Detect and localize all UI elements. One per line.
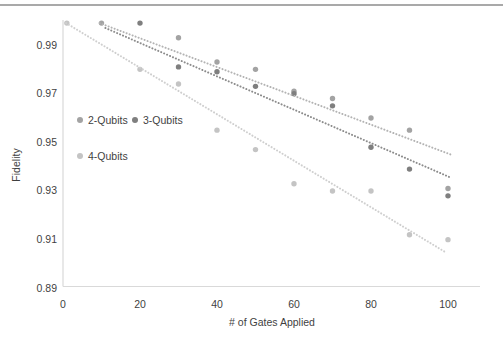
y-tick-label: 0.93 xyxy=(37,184,58,196)
legend-item-2-qubits: 2-Qubits xyxy=(77,114,128,126)
trendline-2-qubits xyxy=(100,23,451,154)
x-tick-label: 20 xyxy=(134,298,146,310)
legend-item-3-qubits: 3-Qubits xyxy=(132,114,183,126)
scatter-point-2-qubits xyxy=(445,186,450,191)
trendline-3-qubits xyxy=(105,28,450,178)
scatter-point-4-qubits xyxy=(214,127,219,132)
x-tick-label: 0 xyxy=(60,298,66,310)
scatter-point-3-qubits xyxy=(330,103,335,108)
scatter-point-2-qubits xyxy=(407,127,412,132)
chart-figure: 0.990.970.950.930.910.89020406080100 Fid… xyxy=(0,0,503,346)
scatter-point-4-qubits xyxy=(407,232,412,237)
scatter-point-3-qubits xyxy=(368,144,373,149)
scatter-point-2-qubits xyxy=(330,96,335,101)
scatter-point-2-qubits xyxy=(214,59,219,64)
scatter-point-3-qubits xyxy=(214,69,219,74)
scatter-point-3-qubits xyxy=(445,193,450,198)
scatter-point-4-qubits xyxy=(291,181,296,186)
y-tick-label: 0.97 xyxy=(37,87,58,99)
legend-dot-icon xyxy=(77,117,83,123)
scatter-point-2-qubits xyxy=(253,67,258,72)
legend-dot-icon xyxy=(132,117,138,123)
scatter-point-3-qubits xyxy=(253,84,258,89)
x-tick-label: 60 xyxy=(288,298,300,310)
trendline-4-qubits xyxy=(66,23,446,252)
legend-label: 2-Qubits xyxy=(88,114,128,126)
scatter-point-4-qubits xyxy=(176,81,181,86)
legend-item-4-qubits: 4-Qubits xyxy=(77,150,128,162)
scatter-point-3-qubits xyxy=(137,20,142,25)
legend-label: 4-Qubits xyxy=(88,150,128,162)
scatter-point-2-qubits xyxy=(368,115,373,120)
scatter-point-4-qubits xyxy=(253,147,258,152)
scatter-point-2-qubits xyxy=(176,35,181,40)
y-tick-label: 0.91 xyxy=(37,233,58,245)
y-tick-label: 0.99 xyxy=(37,39,58,51)
scatter-point-3-qubits xyxy=(407,166,412,171)
scatter-point-4-qubits xyxy=(445,237,450,242)
x-tick-label: 80 xyxy=(365,298,377,310)
scatter-point-3-qubits xyxy=(176,64,181,69)
plot-area: 0.990.970.950.930.910.89020406080100 xyxy=(0,0,503,346)
x-tick-label: 100 xyxy=(439,298,457,310)
y-tick-label: 0.89 xyxy=(37,282,58,294)
legend-dot-icon xyxy=(77,153,83,159)
x-tick-label: 40 xyxy=(211,298,223,310)
legend-label: 3-Qubits xyxy=(143,114,183,126)
y-axis-title: Fidelity xyxy=(10,148,22,181)
scatter-point-4-qubits xyxy=(330,188,335,193)
y-tick-label: 0.95 xyxy=(37,136,58,148)
scatter-point-4-qubits xyxy=(368,188,373,193)
x-axis-title: # of Gates Applied xyxy=(229,316,315,328)
